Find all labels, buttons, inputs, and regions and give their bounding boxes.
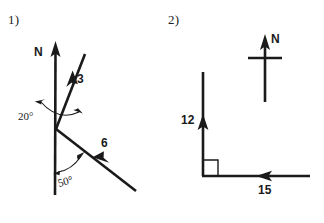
problem-2-diagram: 12 15 N — [181, 32, 310, 197]
worksheet-canvas: 1) 2) N 3 6 — [0, 0, 324, 223]
north-label-2: N — [271, 32, 280, 46]
vector-3-label: 3 — [77, 72, 84, 86]
vector-6-arrowhead — [93, 151, 110, 163]
angle-50-arc — [53, 152, 84, 175]
problem-1-diagram: N 3 6 20° — [18, 41, 136, 195]
angle-50-label: 50° — [56, 173, 74, 189]
vector-12-label: 12 — [181, 113, 195, 127]
north-label-1: N — [34, 45, 43, 59]
vector-15-label: 15 — [258, 183, 272, 197]
angle-50-value: 50° — [56, 173, 74, 189]
angle-20-value: 20° — [18, 110, 33, 122]
right-angle-marker — [204, 160, 218, 175]
vector-3-line — [56, 54, 85, 129]
diagrams-svg: N 3 6 20° — [0, 0, 324, 223]
angle-20-label: 20° — [18, 110, 33, 122]
angle-20-arc — [35, 99, 83, 115]
vector-6-label: 6 — [101, 136, 108, 150]
